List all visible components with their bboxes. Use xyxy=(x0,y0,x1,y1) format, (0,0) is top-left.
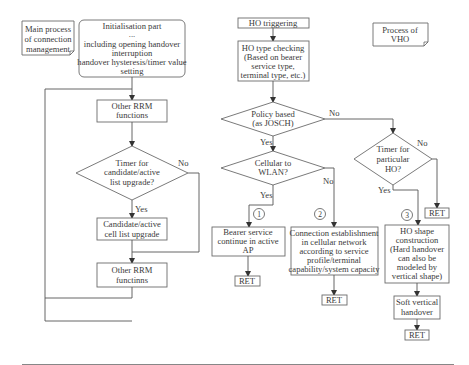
ho-type-checking-box: HO type checking (Based on bearer servic… xyxy=(238,41,309,81)
timer-particular-line1: Timer for xyxy=(377,144,410,154)
connection-line5: capability/system capacity xyxy=(289,264,381,274)
timer-particular-line2: particular xyxy=(377,154,410,164)
other-rrm-2-line2: functinns xyxy=(116,275,149,285)
ret-3-label: RET xyxy=(429,208,446,218)
candidate-upgrade-box: Candidate/active cell list upgrade xyxy=(97,218,167,240)
ret-2-label: RET xyxy=(326,295,343,305)
other-rrm-box-1: Other RRM functions xyxy=(97,100,167,122)
bearer-line3: AP xyxy=(243,245,254,255)
timer-particular-yes-label: Yes xyxy=(378,185,391,195)
ret-box-2: RET xyxy=(322,295,347,305)
policy-decision: Policy based (as JOSCH) xyxy=(221,102,325,136)
other-rrm-box-2: Other RRM functinns xyxy=(97,263,167,287)
init-line6: setting xyxy=(121,66,145,76)
candidate-upgrade-line1: Candidate/active xyxy=(103,219,161,229)
cellular-line2: WLAN? xyxy=(258,167,288,177)
note-main-process-line3: management xyxy=(26,44,71,54)
policy-no-label: No xyxy=(329,108,340,118)
timer-candidate-yes-label: Yes xyxy=(135,204,148,214)
flowchart-diagram: Main process of connection management In… xyxy=(0,0,469,365)
ret-box-3: RET xyxy=(425,208,449,218)
init-box: Initialisation part ... including openin… xyxy=(77,20,186,77)
timer-candidate-no-label: No xyxy=(178,158,189,168)
step-marker-3: 3 xyxy=(402,210,413,221)
soft-vertical-line1: Soft vertical xyxy=(396,297,439,307)
soft-vertical-line2: handover xyxy=(401,307,433,317)
note-process-vho: Process of VHO xyxy=(373,23,428,46)
init-line2: ... xyxy=(129,29,135,39)
timer-particular-no-label: No xyxy=(417,138,428,148)
ret-box-1: RET xyxy=(235,276,260,286)
step-marker-1-label: 1 xyxy=(257,210,261,219)
cellular-no-label: No xyxy=(323,176,334,186)
ret-1-label: RET xyxy=(239,276,256,286)
candidate-upgrade-line2: cell list upgrade xyxy=(105,229,160,239)
step-marker-1: 1 xyxy=(254,209,265,220)
connection-establishment-box: Connection establishment in cellular net… xyxy=(289,227,381,275)
timer-candidate-decision: Timer for candidate/active list upgrade? xyxy=(76,146,188,200)
timer-candidate-line3: list upgrade? xyxy=(110,177,154,187)
cellular-to-wlan-decision: Cellular to WLAN? xyxy=(221,151,325,185)
cellular-yes-label: Yes xyxy=(260,190,273,200)
policy-yes-label: Yes xyxy=(260,137,273,147)
timer-candidate-line2: candidate/active xyxy=(104,167,160,177)
ho-shape-line6: vertical shape) xyxy=(392,271,442,281)
ho-type-line4: terminal type, etc.) xyxy=(241,70,306,80)
note-main-process: Main process of connection management xyxy=(22,21,74,55)
ho-triggering-label: HO triggering xyxy=(249,18,298,28)
timer-particular-line3: HO? xyxy=(385,164,401,174)
soft-vertical-handover-box: Soft vertical handover xyxy=(394,296,440,319)
ret-box-4: RET xyxy=(405,330,429,340)
step-marker-2-label: 2 xyxy=(318,210,322,219)
note-main-process-line2: of connection xyxy=(24,34,72,44)
note-main-process-line1: Main process xyxy=(25,24,72,34)
timer-no-connector xyxy=(432,159,437,208)
note-vho-line2: VHO xyxy=(391,34,410,44)
step-marker-3-label: 3 xyxy=(405,211,409,220)
bearer-service-box: Bearer service continue in active AP xyxy=(212,227,285,256)
ho-triggering-box: HO triggering xyxy=(238,18,309,28)
policy-no-connector xyxy=(325,119,393,133)
ho-shape-box: HO shape construction (Hard handover can… xyxy=(385,225,449,283)
step-marker-2: 2 xyxy=(315,209,326,220)
other-rrm-2-line1: Other RRM xyxy=(112,265,153,275)
other-rrm-1-line2: functions xyxy=(116,110,149,120)
policy-line2: (as JOSCH) xyxy=(252,118,293,128)
ret-4-label: RET xyxy=(409,330,426,340)
